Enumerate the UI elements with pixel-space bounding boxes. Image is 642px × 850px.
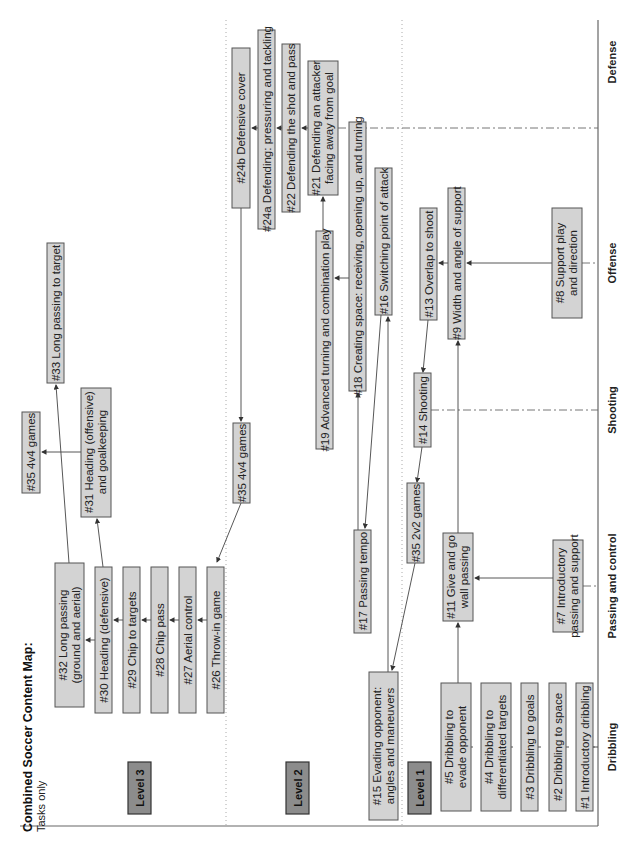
task-22: #22 Defending the shot and pass [282, 43, 300, 212]
task-5: #5 Dribbling to evade opponent [441, 683, 471, 811]
page-subtitle: Tasks only [35, 780, 47, 832]
svg-text:#27 Aerial control: #27 Aerial control [182, 596, 194, 685]
svg-text:Level 3: Level 3 [134, 769, 146, 806]
svg-text:#5 Dribbling to: #5 Dribbling to [443, 710, 455, 784]
edge-35-2v2-to-15 [392, 563, 415, 670]
svg-text:and goalkeeping: and goalkeeping [96, 410, 108, 494]
svg-text:#22 Defending the shot and pas: #22 Defending the shot and pass [285, 43, 297, 212]
task-16: #16 Switching point of attack [375, 168, 392, 315]
task-14: #14 Shooting [414, 373, 431, 447]
category-passing-and-control: Passing and control [606, 533, 618, 638]
svg-text:(ground and aerial): (ground and aerial) [70, 586, 82, 683]
svg-text:#19 Advanced turning and combi: #19 Advanced turning and combination pla… [319, 228, 331, 451]
task-27: #27 Aerial control [179, 567, 196, 713]
edge-35-4v4-to-26 [217, 503, 241, 562]
svg-text:facing away from goal: facing away from goal [323, 72, 335, 184]
category-dribbling: Dribbling [606, 723, 618, 771]
svg-text:#30 Heading (defensive): #30 Heading (defensive) [98, 577, 110, 702]
edge-13-to-14 [423, 320, 428, 372]
svg-text:#35 2v2 games: #35 2v2 games [410, 483, 422, 562]
task-35-4v4-level3: #35 4v4 games [22, 412, 40, 493]
task-28: #28 Chip pass [151, 567, 168, 713]
level-3-badge: Level 3 [128, 762, 151, 814]
svg-text:#21 Defending an attacker: #21 Defending an attacker [310, 60, 322, 195]
task-11: #11 Give and go wall passing [443, 533, 473, 621]
svg-text:#28 Chip pass: #28 Chip pass [154, 603, 166, 677]
svg-text:#14 Shooting: #14 Shooting [417, 376, 429, 444]
task-18: #18 Creating space: receiving, opening u… [349, 116, 366, 395]
task-13: #13 Overlap to shoot [420, 208, 437, 320]
task-32: #32 Long passing (ground and aerial) [55, 563, 84, 707]
svg-text:#31 Heading (offensive): #31 Heading (offensive) [83, 391, 95, 513]
task-24b: #24b Defensive cover [232, 48, 250, 208]
task-33: #33 Long passing to target [47, 243, 64, 383]
svg-text:#32 Long passing: #32 Long passing [57, 590, 69, 681]
task-7: #7 Introductory passing and support [553, 533, 583, 637]
content-map-diagram: Combined Soccer Content Map: Tasks only … [0, 0, 642, 850]
task-8: #8 Support play and direction [552, 208, 582, 318]
svg-text:evade opponent: evade opponent [456, 705, 468, 788]
svg-text:#26 Throw-in game: #26 Throw-in game [210, 591, 222, 690]
svg-text:#35 4v4 games: #35 4v4 games [236, 423, 248, 502]
task-1: #1 Introductory dribbling [576, 683, 593, 811]
svg-text:Level 1: Level 1 [414, 769, 426, 806]
task-35-4v4-level2: #35 4v4 games [233, 423, 250, 503]
edge-30-to-31 [97, 519, 103, 567]
svg-text:#11 Give and go: #11 Give and go [445, 535, 457, 619]
svg-text:#17 Passing tempo: #17 Passing tempo [357, 532, 369, 630]
level-1-badge: Level 1 [408, 762, 431, 814]
category-defense: Defense [606, 41, 618, 84]
task-2: #2 Dribbling to space [549, 683, 566, 811]
category-offense: Offense [606, 243, 618, 284]
svg-text:#33 Long passing to target: #33 Long passing to target [50, 244, 62, 381]
svg-text:passing and support: passing and support [568, 533, 580, 637]
svg-text:#2 Dribbling to space: #2 Dribbling to space [552, 693, 564, 801]
level-2-badge: Level 2 [286, 762, 309, 814]
task-31: #31 Heading (offensive) and goalkeeping [81, 388, 111, 517]
svg-text:#18 Creating space: receiving,: #18 Creating space: receiving, opening u… [352, 116, 364, 395]
svg-text:wall passing: wall passing [458, 546, 470, 610]
category-labels: Dribbling Passing and control Shooting O… [606, 41, 618, 772]
task-30: #30 Heading (defensive) [95, 567, 112, 713]
svg-text:#24b Defensive cover: #24b Defensive cover [235, 72, 247, 183]
svg-text:#35 4v4 games: #35 4v4 games [25, 412, 37, 491]
edge-16-to-17 [365, 315, 381, 528]
svg-text:#13 Overlap to shoot: #13 Overlap to shoot [423, 210, 435, 318]
task-19: #19 Advanced turning and combination pla… [316, 228, 333, 451]
task-3: #3 Dribbling to goals [521, 683, 538, 811]
task-24a: #24a Defending: pressuring and tackling [258, 26, 275, 232]
task-15: #15 Evading opponent: angles and maneuve… [369, 672, 398, 820]
category-shooting: Shooting [606, 386, 618, 434]
edge-32-to-33 [56, 385, 69, 563]
svg-text:#9 Width and angle of support: #9 Width and angle of support [451, 185, 463, 339]
svg-text:#15 Evading opponent:: #15 Evading opponent: [371, 687, 383, 805]
svg-text:#7 Introductory: #7 Introductory [555, 547, 567, 624]
task-26: #26 Throw-in game [207, 567, 224, 713]
svg-text:#1 Introductory dribbling: #1 Introductory dribbling [579, 685, 591, 808]
title-block: Combined Soccer Content Map: Tasks only [21, 642, 47, 832]
svg-text:Level 2: Level 2 [292, 769, 304, 806]
task-9: #9 Width and angle of support [448, 185, 465, 339]
svg-text:differentiated targets: differentiated targets [496, 694, 508, 799]
svg-text:#3 Dribbling to goals: #3 Dribbling to goals [524, 694, 536, 799]
svg-text:and direction: and direction [567, 230, 579, 296]
task-35-2v2: #35 2v2 games [407, 483, 424, 563]
svg-text:#16 Switching point of attack: #16 Switching point of attack [378, 168, 390, 315]
svg-text:#29 Chip to targets: #29 Chip to targets [126, 591, 138, 688]
svg-text:angles and maneuvers: angles and maneuvers [384, 688, 396, 805]
task-21: #21 Defending an attacker facing away fr… [308, 60, 338, 195]
task-17: #17 Passing tempo [354, 530, 371, 633]
svg-text:#8 Support play: #8 Support play [554, 222, 566, 303]
page-title: Combined Soccer Content Map: [21, 642, 35, 832]
task-4: #4 Dribbling to differentiated targets [481, 683, 511, 811]
task-29: #29 Chip to targets [123, 567, 140, 713]
edge-14-to-35-2v2 [417, 447, 422, 482]
svg-text:#24a Defending: pressuring and: #24a Defending: pressuring and tackling [261, 26, 273, 232]
svg-text:#4 Dribbling to: #4 Dribbling to [483, 710, 495, 784]
